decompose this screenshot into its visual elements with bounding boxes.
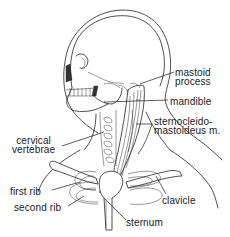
cervical-vertebrae <box>104 117 114 163</box>
clavicle-left <box>49 161 98 184</box>
neck-front <box>84 114 96 150</box>
sternum <box>99 171 123 230</box>
label-sternum: sternum <box>126 218 163 227</box>
label-mastoid-process: mastoid process <box>175 68 211 86</box>
nasal-cavity <box>66 64 72 82</box>
label-clavicle: clavicle <box>162 196 196 205</box>
leader-mastoid <box>140 72 174 84</box>
neck-anatomy-diagram: mastoid process mandible sternocleido- m… <box>0 0 230 237</box>
leader-second-rib <box>68 196 84 206</box>
label-cervical-vertebrae: cervical vertebrae <box>12 136 55 154</box>
leader-cervical <box>62 132 104 146</box>
label-sternocleidomastoideus: sternocleido- mastoideus m. <box>154 117 220 135</box>
skull-face <box>67 88 108 112</box>
leader-first-rib <box>52 182 80 190</box>
eye-orbit <box>76 54 88 69</box>
label-second-rib: second rib <box>14 203 61 212</box>
skull-cranium <box>70 16 164 88</box>
clavicle-right <box>126 171 182 189</box>
label-mandible: mandible <box>170 97 211 106</box>
label-first-rib: first rib <box>10 187 41 196</box>
leader-mandible <box>104 100 168 102</box>
leader-scm-2 <box>138 124 152 154</box>
